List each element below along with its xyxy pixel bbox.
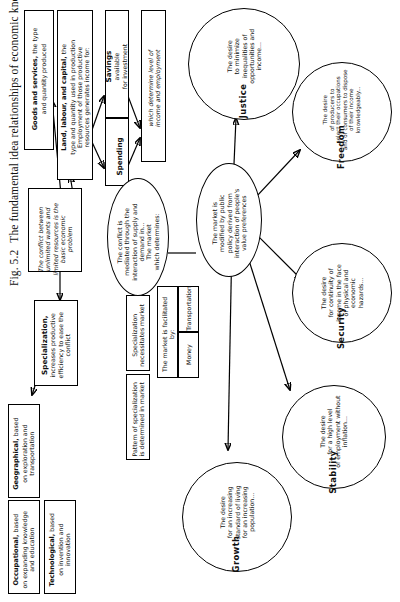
circle-value-stability: The desire for a high level of employmen…	[282, 385, 386, 489]
ellipse-market-modified-text: The market is modified by public policy …	[211, 170, 248, 276]
box-specialization-necessitates-market: Specialization necessitates market	[126, 295, 150, 371]
box-goods-and-services: Goods and services, the type and quantit…	[24, 10, 54, 150]
box-spending-text: Spending	[108, 124, 127, 188]
box-specialization-text: Specialization, increases productive eff…	[41, 304, 71, 386]
figure-caption: The fundamental idea relationships of ec…	[8, 0, 20, 243]
box-pattern-of-specialization: Pattern of specialization is determined …	[126, 374, 150, 460]
box-specialization: Specialization, increases productive eff…	[34, 300, 78, 386]
circle-value-security-label: Security	[337, 289, 347, 367]
box-savings: Savings available for investment	[105, 10, 129, 118]
circle-value-stability-label: Stability	[329, 433, 339, 511]
box-market-facilitated-by-text: The market is facilitated by:	[160, 290, 175, 378]
box-money-text: Money	[185, 333, 192, 377]
box-which-determine-level-text: which determine level of income and empl…	[146, 14, 161, 162]
circle-value-growth-label: Growth	[232, 514, 242, 594]
box-which-determine-level: which determine level of income and empl…	[141, 10, 166, 162]
circle-value-justice: The desire to minimize inequalities of o…	[188, 8, 300, 120]
circle-value-justice-label: Justice	[239, 61, 249, 141]
box-pattern-of-specialization-text: Pattern of specialization is determined …	[131, 378, 146, 460]
box-occupational-text: Occupational, based on expanding knowled…	[12, 505, 35, 595]
ellipse-conflict-mediated: The conflict is mediated through the int…	[107, 178, 169, 296]
box-money: Money	[178, 332, 199, 378]
ellipse-market-modified: The market is modified by public policy …	[196, 163, 262, 277]
box-land-labour-capital-text: Land, labour, and capital, the type and …	[60, 14, 91, 180]
circle-value-freedom-label: Freedom	[337, 108, 347, 186]
box-land-labour-capital: Land, labour, and capital, the type and …	[57, 10, 93, 180]
box-spending: Spending	[105, 118, 129, 186]
circle-value-growth: The desire for an increasing standard of…	[182, 462, 292, 572]
circle-value-security: The desire for continuity of income in t…	[292, 243, 392, 343]
box-geographical: Geographical, based on exploration and t…	[8, 404, 40, 498]
box-geographical-text: Geographical, based on exploration and t…	[12, 409, 35, 499]
box-goods-and-services-text: Goods and services, the type and quantit…	[31, 12, 47, 147]
figure-canvas: Fig. 5.2The fundamental idea relationshi…	[0, 0, 400, 602]
box-technological-text: Technological, based on invention and in…	[48, 505, 71, 595]
ellipse-conflict-mediated-text: The conflict is mediated through the int…	[116, 187, 160, 297]
box-transportation-text: Transportation	[185, 287, 192, 331]
box-savings-text: Savings available for investment	[105, 15, 128, 119]
figure-title: Fig. 5.2The fundamental idea relationshi…	[4, 0, 24, 286]
box-basic-economic-problem-text: The conflict between unlimited wants and…	[37, 199, 74, 279]
box-market-facilitated-by: The market is facilitated by:	[157, 286, 178, 378]
figure-number: Fig. 5.2	[8, 250, 20, 286]
box-basic-economic-problem: The conflict between unlimited wants and…	[28, 188, 82, 272]
box-specialization-necessitates-market-text: Specialization necessitates market	[131, 299, 146, 371]
box-occupational: Occupational, based on expanding knowled…	[8, 500, 40, 594]
box-transportation: Transportation	[178, 286, 199, 332]
box-technological: Technological, based on invention and in…	[44, 500, 76, 594]
circle-value-freedom: The desire of producers to select their …	[292, 62, 392, 162]
